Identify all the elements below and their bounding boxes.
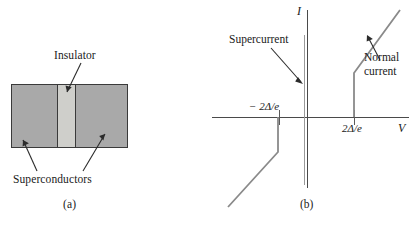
superconductor-right-leader-arrow [83,134,105,171]
normal-current-label-line2: current [364,65,399,79]
supercurrent-leader-arrow [271,48,303,84]
figure-root: Insulator Superconductors (a) [0,0,418,226]
panel-b-caption: (b) [300,198,313,210]
normal-current-negative-branch [228,117,278,207]
superconductors-label: Superconductors [13,173,92,186]
panel-a-junction-diagram: Insulator Superconductors (a) [0,0,209,226]
y-axis-label: I [297,4,301,19]
panel-a-caption: (a) [63,198,76,211]
panel-b-iv-characteristic: I V − 2Δ/e 2Δ/e Supercurrent Normal curr… [209,0,418,226]
insulator-label: Insulator [54,49,96,62]
normal-current-label-line1: Normal [364,51,399,65]
x-axis-label: V [398,121,405,136]
superconductor-left-leader-arrow [23,140,37,171]
x-tick-label-positive: 2Δ/e [342,122,362,134]
normal-current-label: Normal current [364,51,399,78]
panel-a-leader-lines [0,0,209,226]
supercurrent-label: Supercurrent [229,33,288,45]
insulator-leader-arrow [66,63,82,92]
x-tick-label-negative: − 2Δ/e [249,100,279,112]
